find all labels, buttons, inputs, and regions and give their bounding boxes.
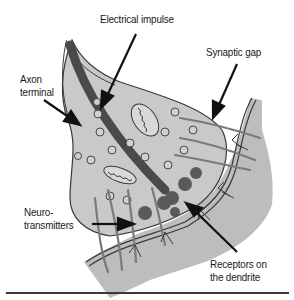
- label-receptors: Receptors on the dendrite: [210, 258, 267, 284]
- bottom-divider: [6, 292, 289, 294]
- arrow-synaptic-gap: [218, 64, 237, 107]
- label-electrical-impulse: Electrical impulse: [100, 13, 174, 26]
- synapse-diagram: [0, 0, 294, 300]
- label-synaptic-gap: Synaptic gap: [206, 46, 261, 59]
- label-axon-terminal: Axon terminal: [20, 73, 54, 99]
- label-neurotransmitters: Neuro- transmitters: [24, 206, 74, 232]
